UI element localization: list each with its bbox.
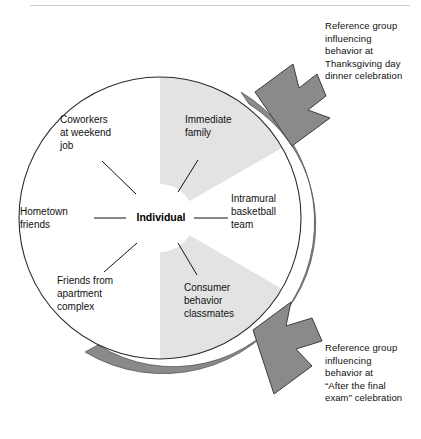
- caption-thanksgiving: Reference group influencing behavior at …: [325, 20, 421, 83]
- caption-final-exam: Reference group influencing behavior at …: [325, 342, 421, 405]
- arrow-final-exam-icon: [253, 302, 322, 394]
- node-label-consumer-classmates: Consumer behavior classmates: [184, 281, 258, 321]
- center-label-individual: Individual: [129, 211, 193, 223]
- node-label-hometown-friends: Hometown friends: [20, 205, 94, 231]
- spoke-coworkers: [102, 161, 136, 194]
- spoke-friends-apt: [104, 243, 137, 272]
- node-label-intramural-team: Intramural basketball team: [231, 192, 305, 232]
- node-label-apartment-friends: Friends from apartment complex: [57, 274, 137, 314]
- reference-group-diagram: Individual Coworkers at weekend job Imme…: [0, 0, 421, 439]
- node-label-coworkers: Coworkers at weekend job: [60, 113, 134, 153]
- node-label-immediate-family: Immediate family: [185, 113, 257, 139]
